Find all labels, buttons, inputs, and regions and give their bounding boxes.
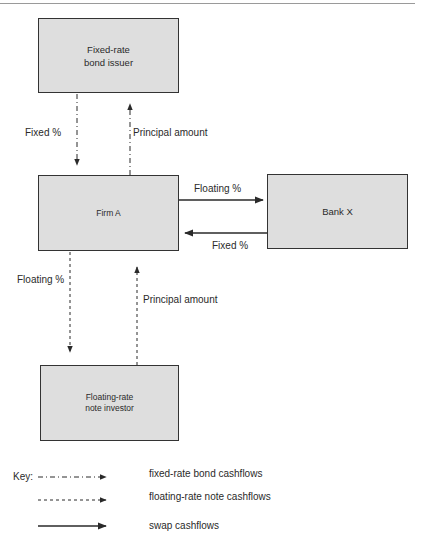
node-label: Bank X [322, 205, 353, 218]
label-bank-to-firm-fixed: Fixed % [212, 240, 248, 251]
node-bank-x: Bank X [267, 174, 408, 249]
label-investor-to-firm-principal: Principal amount [143, 294, 217, 305]
node-label: Firm A [96, 208, 121, 219]
node-label-line2: note investor [85, 403, 134, 414]
key-title: Key: [13, 471, 33, 482]
key-item-floating-rate-note: floating-rate note cashflows [149, 491, 271, 502]
node-label-line1: Floating-rate [85, 392, 134, 403]
key-item-swap: swap cashflows [149, 520, 219, 531]
node-floating-rate-note-investor: Floating-rate note investor [40, 365, 179, 441]
label-firm-to-investor-floating: Floating % [17, 274, 64, 285]
node-fixed-rate-bond-issuer: Fixed-rate bond issuer [38, 18, 179, 93]
node-label-line2: bond issuer [84, 56, 133, 69]
label-firm-to-issuer-principal: Principal amount [133, 127, 207, 138]
node-firm-a: Firm A [38, 175, 179, 251]
key-item-fixed-rate-bond: fixed-rate bond cashflows [149, 468, 262, 479]
header-rule [0, 3, 415, 4]
label-firm-to-bank-floating: Floating % [194, 183, 241, 194]
node-label-line1: Fixed-rate [84, 43, 133, 56]
label-issuer-to-firm-fixed: Fixed % [25, 127, 61, 138]
